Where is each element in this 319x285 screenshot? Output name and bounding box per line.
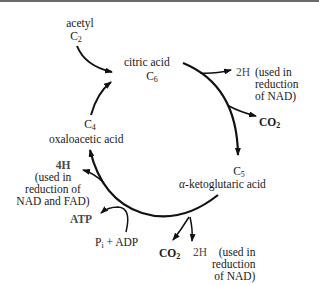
h2-top-note: (used in reduction of NAD) (255, 66, 298, 102)
ketoglutaric-acid-label: α-ketoglutaric acid (179, 178, 266, 190)
cycle-arrows (0, 0, 319, 285)
citric-to-ketoglutaric-arc (183, 63, 238, 155)
ketoglutaric-carbon-count: C5 (227, 165, 251, 177)
h2-top-branch-arrow (200, 70, 231, 73)
acetyl-label: acetyl (58, 17, 102, 29)
atp-label: ATP (70, 213, 92, 225)
h2-bottom-label: 2H (193, 246, 207, 258)
oxaloacetic-acid-label: oxaloacetic acid (49, 133, 123, 145)
h2-top-label: 2H (236, 66, 250, 78)
oxaloacetic-to-citric-arrow (91, 82, 111, 115)
h4-note: (used in reduction of NAD and FAD) (10, 171, 96, 207)
co2-bottom-branch-arrow (173, 217, 189, 240)
oxaloacetic-carbon-count: C4 (78, 118, 102, 130)
citric-acid-label: citric acid (124, 56, 170, 68)
co2-top-label: CO2 (259, 116, 280, 128)
citric-acid-carbon-count: C6 (140, 70, 164, 82)
h2-bottom-note: (used in reduction of NAD) (212, 246, 255, 282)
acetyl-to-citric-arrow (77, 46, 112, 72)
acetyl-carbon-count: C2 (64, 30, 88, 42)
co2-top-branch-arrow (229, 106, 256, 116)
h4-label: 4H (48, 159, 78, 171)
co2-bottom-label: CO2 (159, 247, 180, 259)
pi-adp-label: Pi + ADP (95, 236, 138, 248)
h2-bottom-branch-arrow (190, 217, 192, 241)
pi-adp-to-atp-arrow (101, 207, 128, 232)
